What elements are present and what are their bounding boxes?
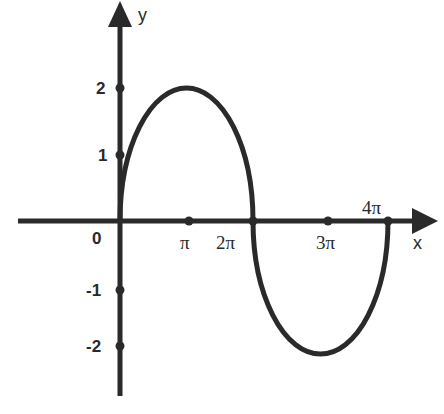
y-tick-label-2: 2 (96, 80, 105, 97)
y-tick-label-m2: -2 (86, 338, 101, 355)
y-axis-label: y (138, 6, 147, 24)
tick-x-4pi (384, 217, 393, 226)
y-axis-arrow-icon (108, 1, 132, 27)
tick-x-2pi (249, 217, 258, 226)
x-axis-arrow-icon (412, 208, 438, 234)
tick-y-2 (116, 84, 125, 93)
x-tick-label-3pi: 3π (316, 233, 335, 252)
origin-label: 0 (92, 230, 101, 247)
x-tick-label-pi: π (180, 233, 190, 252)
tick-x-pi (185, 217, 194, 226)
tick-y-1 (116, 151, 125, 160)
y-tick-label-m1: -1 (86, 282, 101, 299)
tick-y-m2 (116, 342, 125, 351)
y-tick-label-1: 1 (98, 147, 107, 164)
tick-y-m1 (116, 286, 125, 295)
curve-upper-arc (120, 88, 253, 221)
x-axis-label: x (413, 234, 422, 252)
x-tick-label-2pi: 2π (216, 233, 235, 252)
tick-x-3pi (324, 217, 333, 226)
x-tick-label-4pi: 4π (362, 198, 381, 217)
